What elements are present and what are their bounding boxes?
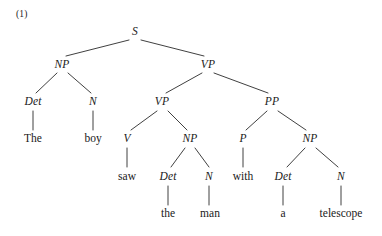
tree-node-word-saw: saw	[118, 171, 136, 183]
tree-edge-np_object-to-n_2	[195, 148, 209, 167]
tree-node-word-telescope: telescope	[320, 208, 363, 220]
tree-edge-vp_top-to-vp_inner	[166, 73, 202, 93]
tree-node-det-1: Det	[24, 96, 41, 108]
tree-branch-lines	[0, 0, 382, 236]
tree-node-n-2: N	[205, 171, 213, 183]
tree-edge-np_pp-to-det_3	[287, 148, 305, 167]
tree-node-np-object: NP	[182, 133, 197, 145]
tree-edge-pp-to-p	[246, 111, 267, 130]
tree-node-det-2: Det	[159, 171, 176, 183]
tree-edge-vp_inner-to-np_object	[168, 111, 187, 130]
example-number-label: (1)	[16, 9, 28, 19]
tree-edge-vp_inner-to-v	[131, 111, 157, 130]
tree-node-word-the-1: The	[24, 133, 42, 145]
tree-node-word-man: man	[200, 208, 220, 220]
tree-edge-np_subject-to-det_1	[36, 73, 57, 93]
tree-node-word-a: a	[280, 208, 285, 220]
syntax-tree-figure: (1) SNPVPDetNVPPPTheboyVNPPNPsawDetNwith…	[0, 0, 382, 236]
tree-node-np-subject: NP	[54, 59, 69, 71]
tree-node-vp-top: VP	[201, 59, 215, 71]
tree-node-pp: PP	[265, 96, 279, 108]
tree-node-word-the-2: the	[161, 208, 175, 220]
tree-edge-np_pp-to-n_3	[316, 148, 338, 167]
tree-edge-s-to-np_subject	[66, 40, 129, 56]
tree-node-word-with: with	[233, 171, 253, 183]
tree-edge-s-to-vp_top	[141, 40, 204, 56]
tree-node-np-pp: NP	[302, 133, 317, 145]
tree-node-p: P	[239, 133, 246, 145]
tree-node-vp-inner: VP	[155, 96, 169, 108]
tree-node-det-3: Det	[274, 171, 291, 183]
tree-node-word-boy: boy	[84, 133, 101, 145]
tree-edge-np_subject-to-n_1	[68, 73, 91, 93]
tree-edge-pp-to-np_pp	[278, 111, 306, 130]
tree-node-n-3: N	[337, 171, 345, 183]
tree-edge-np_object-to-det_2	[171, 148, 185, 167]
tree-node-v: V	[123, 133, 130, 145]
tree-node-s: S	[132, 26, 138, 38]
tree-node-n-1: N	[89, 96, 97, 108]
tree-edge-vp_top-to-pp	[214, 73, 268, 93]
